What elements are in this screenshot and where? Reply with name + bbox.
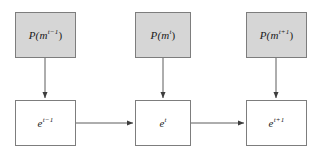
vertical-edges xyxy=(45,58,276,98)
observation-node-label: P(mt−1) xyxy=(29,29,63,41)
state-node-t: et xyxy=(135,100,191,146)
observation-node-label: P(mt+1) xyxy=(260,29,294,41)
observation-node-t-plus-1: P(mt+1) xyxy=(246,12,307,58)
state-node-label: et−1 xyxy=(38,117,54,129)
state-node-label: et xyxy=(159,117,166,129)
observation-node-t: P(mt) xyxy=(135,12,191,58)
state-node-t-plus-1: et+1 xyxy=(246,100,307,146)
observation-node-label: P(mt) xyxy=(151,29,176,41)
diagram-canvas: P(mt−1) P(mt) P(mt+1) et−1 et et+1 xyxy=(0,0,322,155)
state-node-label: et+1 xyxy=(269,117,285,129)
observation-node-t-minus-1: P(mt−1) xyxy=(15,12,76,58)
state-node-t-minus-1: et−1 xyxy=(15,100,76,146)
